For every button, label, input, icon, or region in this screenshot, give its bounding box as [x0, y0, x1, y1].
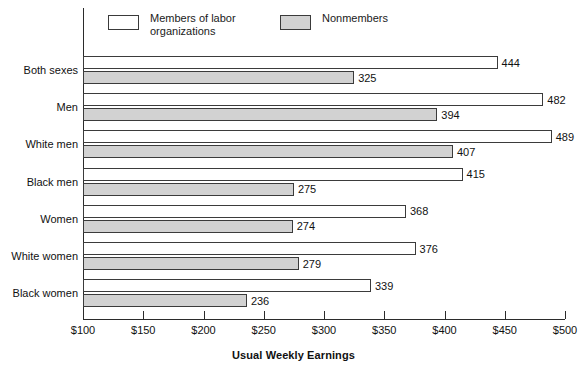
- x-tick-label: $250: [252, 324, 276, 336]
- bar-white-women-nonmembers: [83, 257, 299, 270]
- bar-men-members: [83, 93, 543, 106]
- bar-value-label: 325: [358, 72, 376, 84]
- x-tick: [83, 311, 84, 319]
- bar-white-men-members: [83, 130, 552, 143]
- x-tick: [264, 311, 265, 319]
- x-tick: [565, 311, 566, 319]
- bar-white-women-members: [83, 242, 416, 255]
- x-tick: [204, 311, 205, 319]
- bar-value-label: 407: [457, 146, 475, 158]
- bar-value-label: 275: [298, 183, 316, 195]
- bar-women-nonmembers: [83, 220, 293, 233]
- bar-value-label: 489: [556, 131, 574, 143]
- x-tick: [445, 311, 446, 319]
- bar-value-label: 236: [251, 295, 269, 307]
- bar-black-men-nonmembers: [83, 183, 294, 196]
- bar-chart: Members of labor organizations Nonmember…: [0, 0, 587, 374]
- bar-value-label: 394: [441, 109, 459, 121]
- x-tick-label: $100: [71, 324, 95, 336]
- bar-both-sexes-members: [83, 56, 498, 69]
- bar-women-members: [83, 205, 406, 218]
- bar-both-sexes-nonmembers: [83, 71, 354, 84]
- x-tick: [324, 311, 325, 319]
- bar-value-label: 415: [467, 168, 485, 180]
- bar-black-women-nonmembers: [83, 294, 247, 307]
- x-tick: [143, 311, 144, 319]
- bar-value-label: 368: [410, 205, 428, 217]
- x-tick: [505, 311, 506, 319]
- x-axis-title: Usual Weekly Earnings: [0, 349, 587, 361]
- bar-value-label: 339: [375, 280, 393, 292]
- bar-black-men-members: [83, 168, 463, 181]
- bar-black-women-members: [83, 279, 371, 292]
- x-tick-label: $200: [191, 324, 215, 336]
- x-tick-label: $450: [493, 324, 517, 336]
- bar-white-men-nonmembers: [83, 145, 453, 158]
- x-tick-label: $150: [131, 324, 155, 336]
- x-tick-label: $500: [553, 324, 577, 336]
- bar-men-nonmembers: [83, 108, 437, 121]
- bars-layer: 4443254823944894074152753682743762793392…: [0, 0, 587, 374]
- x-tick-label: $300: [312, 324, 336, 336]
- x-tick: [384, 311, 385, 319]
- x-tick-label: $350: [372, 324, 396, 336]
- bar-value-label: 274: [297, 220, 315, 232]
- x-tick-label: $400: [432, 324, 456, 336]
- bar-value-label: 482: [547, 94, 565, 106]
- bar-value-label: 279: [303, 258, 321, 270]
- bar-value-label: 376: [420, 243, 438, 255]
- bar-value-label: 444: [502, 57, 520, 69]
